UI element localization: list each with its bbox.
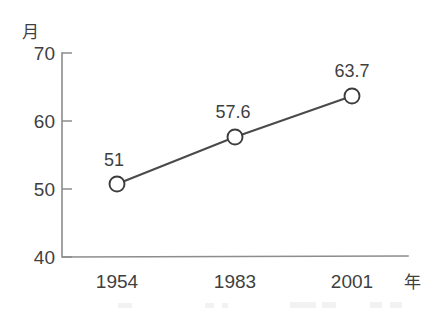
data-point-label-2001: 63.7 xyxy=(334,61,369,81)
x-tick-label-2001: 2001 xyxy=(331,271,373,292)
y-tick-label-50: 50 xyxy=(34,179,55,200)
x-axis-title: 年 xyxy=(404,273,421,292)
y-tick-label-60: 60 xyxy=(34,111,55,132)
data-point-marker-1983 xyxy=(228,130,243,145)
data-point-label-1954: 51 xyxy=(104,150,124,170)
data-point-marker-1954 xyxy=(110,177,125,192)
data-point-label-1983: 57.6 xyxy=(215,102,250,122)
data-point-marker-2001 xyxy=(345,89,360,104)
scan-artifacts xyxy=(118,302,402,308)
y-tick-label-40: 40 xyxy=(34,247,55,268)
x-tick-label-1954: 1954 xyxy=(96,271,139,292)
x-tick-label-1983: 1983 xyxy=(214,271,256,292)
line-chart: 70 60 50 40 月 1954 1983 2001 年 51 57.6 6… xyxy=(0,0,445,311)
y-tick-label-70: 70 xyxy=(34,43,55,64)
chart-canvas: 70 60 50 40 月 1954 1983 2001 年 51 57.6 6… xyxy=(0,0,445,311)
y-axis-title: 月 xyxy=(22,23,39,42)
